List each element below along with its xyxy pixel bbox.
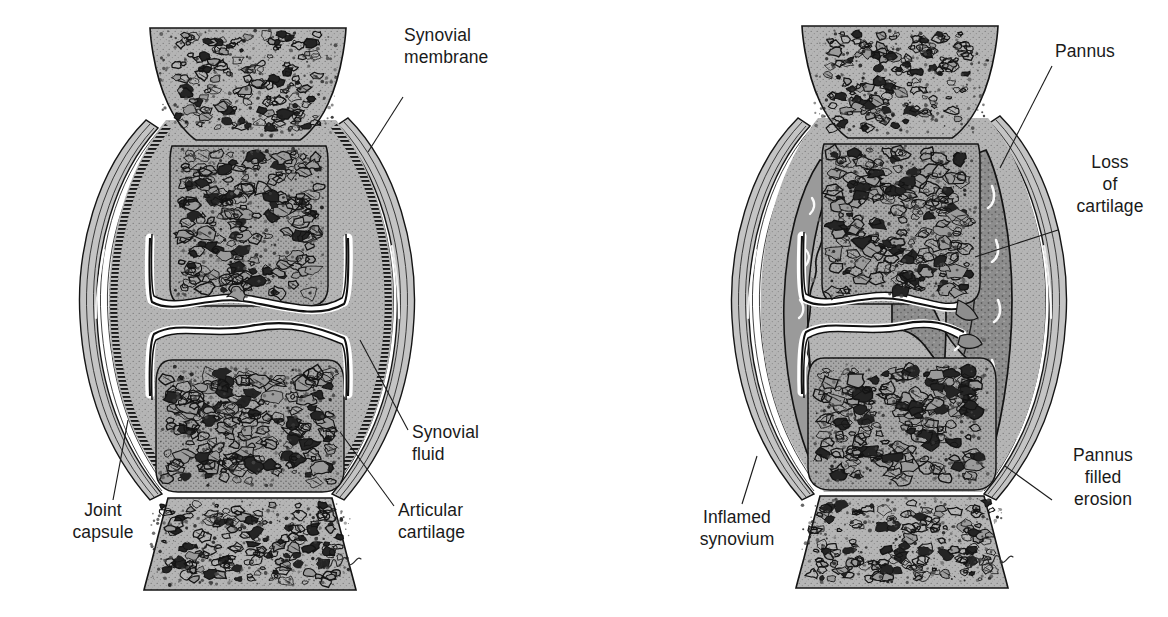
bone-speckle [940, 546, 944, 550]
bone-speckle [291, 517, 294, 520]
bone-speckle [993, 519, 997, 523]
bone-speckle [221, 210, 223, 212]
bone-speckle [185, 120, 188, 123]
bone-speckle [877, 452, 880, 455]
bone-speckle [186, 159, 187, 160]
bone-speckle [182, 379, 184, 381]
bone-speckle [899, 536, 901, 538]
bone-speckle [956, 253, 959, 256]
bone-speckle [228, 209, 231, 212]
bone-speckle [888, 57, 892, 61]
bone-speckle [832, 561, 836, 565]
bone-speckle [868, 529, 872, 533]
bone-speckle [340, 517, 344, 521]
bone-speckle [196, 517, 199, 520]
bone-speckle [966, 83, 968, 85]
bone-speckle [329, 448, 331, 450]
bone-speckle [909, 75, 911, 77]
bone-speckle [212, 540, 215, 543]
bone-speckle [258, 538, 261, 541]
bone-speckle [229, 427, 233, 431]
bone-speckle [312, 441, 313, 442]
bone-speckle [295, 257, 299, 261]
bone-speckle [311, 564, 312, 565]
bone-speckle [242, 172, 246, 176]
bone-speckle [869, 552, 870, 553]
bone-speckle [899, 128, 902, 131]
bone-speckle [926, 430, 929, 433]
bone-speckle [899, 149, 902, 152]
bone-speckle [908, 418, 911, 421]
bone-speckle [315, 453, 318, 456]
bone-speckle [218, 447, 221, 450]
bone-speckle [189, 223, 191, 225]
bone-speckle [256, 234, 260, 238]
bone-speckle [956, 383, 958, 385]
bone-speckle [257, 428, 260, 431]
bone-speckle [292, 66, 294, 68]
bone-speckle [938, 289, 940, 291]
bone-speckle [229, 561, 230, 562]
bone-speckle [246, 284, 248, 286]
bone-speckle [325, 39, 327, 41]
bone-speckle [938, 547, 941, 550]
bone-speckle [252, 461, 256, 465]
bone-speckle [924, 103, 928, 107]
bone-speckle [818, 544, 819, 545]
bone-speckle [174, 468, 176, 470]
bone-speckle [867, 515, 869, 517]
bone-speckle [879, 81, 881, 83]
bone-speckle [306, 284, 308, 286]
bone-speckle [275, 262, 276, 263]
bone-speckle [891, 148, 892, 149]
bone-speckle [152, 575, 153, 576]
bone-speckle [176, 106, 178, 108]
bone-speckle [217, 233, 219, 235]
bone-speckle [985, 408, 988, 411]
bone-speckle [844, 464, 847, 467]
bone-speckle [223, 79, 225, 81]
bone-speckle [209, 187, 211, 189]
bone-speckle [942, 292, 944, 294]
trabecula [324, 542, 330, 546]
bone-speckle [984, 527, 986, 529]
bone-speckle [936, 517, 938, 519]
bone-speckle [333, 393, 334, 394]
trabecula [907, 82, 912, 85]
bone-speckle [909, 127, 910, 128]
bone-speckle [956, 226, 958, 228]
bone-speckle [217, 236, 218, 237]
bone-speckle [170, 36, 172, 38]
bone-speckle [962, 483, 963, 484]
bone-speckle [268, 28, 272, 32]
bone-speckle [177, 395, 180, 398]
bone-speckle [883, 279, 884, 280]
bone-speckle [190, 184, 192, 186]
bone-speckle [202, 514, 204, 516]
bone-speckle [319, 526, 322, 529]
bone-speckle [900, 206, 901, 207]
bone-speckle [929, 377, 932, 380]
bone-speckle [979, 87, 981, 89]
bone-speckle [170, 430, 173, 433]
bone-speckle [308, 48, 310, 50]
bone-speckle [948, 462, 952, 466]
bone-speckle [878, 77, 882, 81]
trabecula [891, 122, 900, 128]
bone-speckle [814, 521, 816, 523]
bone-speckle [273, 252, 276, 255]
bone-speckle [187, 190, 188, 191]
bone-speckle [804, 541, 808, 545]
bone-speckle [245, 367, 248, 370]
bone-speckle [298, 148, 300, 150]
bone-speckle [226, 523, 230, 527]
bone-speckle [902, 213, 905, 216]
bone-speckle [261, 277, 263, 279]
bone-speckle [845, 537, 848, 540]
bone-speckle [285, 382, 288, 385]
bone-speckle [236, 527, 237, 528]
bone-speckle [195, 80, 196, 81]
bone-speckle [908, 162, 911, 165]
bone-speckle [811, 520, 814, 523]
bone-speckle [893, 430, 895, 432]
